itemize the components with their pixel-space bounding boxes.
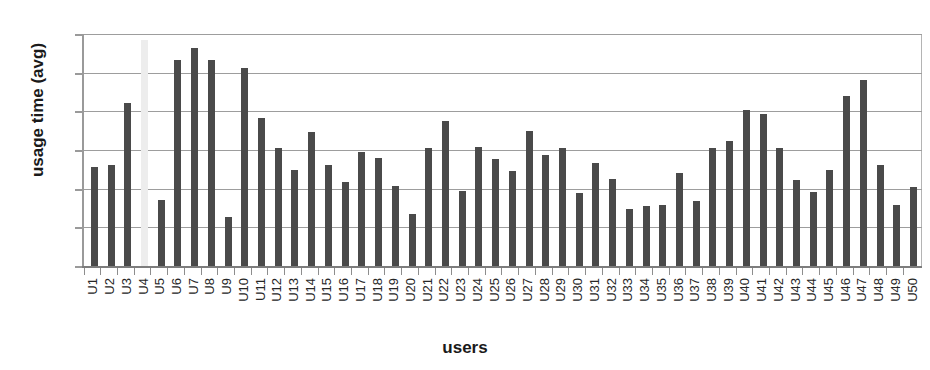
bar-slot[interactable]: [554, 34, 571, 266]
bar[interactable]: [459, 191, 466, 266]
bar[interactable]: [158, 200, 165, 266]
bar-slot[interactable]: [471, 34, 488, 266]
bar[interactable]: [542, 155, 549, 266]
bar-slot[interactable]: [119, 34, 136, 266]
bar-slot[interactable]: [905, 34, 922, 266]
bar[interactable]: [358, 152, 365, 266]
bar[interactable]: [475, 147, 482, 266]
bar[interactable]: [643, 206, 650, 266]
bar-slot[interactable]: [236, 34, 253, 266]
bar-slot[interactable]: [705, 34, 722, 266]
bar-slot[interactable]: [688, 34, 705, 266]
bar[interactable]: [626, 209, 633, 266]
bar-slot[interactable]: [454, 34, 471, 266]
bar-slot[interactable]: [872, 34, 889, 266]
bar-slot[interactable]: [805, 34, 822, 266]
bar[interactable]: [709, 148, 716, 266]
bar-slot[interactable]: [303, 34, 320, 266]
bar[interactable]: [241, 68, 248, 266]
bar[interactable]: [676, 173, 683, 266]
bar[interactable]: [291, 170, 298, 266]
bar-slot[interactable]: [220, 34, 237, 266]
bar[interactable]: [793, 180, 800, 266]
bar[interactable]: [776, 148, 783, 266]
bar[interactable]: [826, 170, 833, 266]
bar-slot[interactable]: [771, 34, 788, 266]
bar[interactable]: [910, 187, 917, 266]
bar-slot[interactable]: [671, 34, 688, 266]
bar-slot[interactable]: [253, 34, 270, 266]
bar[interactable]: [743, 110, 750, 266]
bar[interactable]: [342, 182, 349, 266]
bar-slot[interactable]: [487, 34, 504, 266]
bar[interactable]: [308, 132, 315, 266]
bar[interactable]: [877, 165, 884, 266]
bar-slot[interactable]: [571, 34, 588, 266]
bar-slot[interactable]: [320, 34, 337, 266]
bar-slot[interactable]: [604, 34, 621, 266]
bar[interactable]: [526, 131, 533, 266]
bar-slot[interactable]: [337, 34, 354, 266]
bar[interactable]: [108, 165, 115, 266]
bar[interactable]: [893, 205, 900, 266]
bar[interactable]: [843, 96, 850, 266]
bar[interactable]: [509, 171, 516, 266]
bar-slot[interactable]: [755, 34, 772, 266]
bar[interactable]: [91, 167, 98, 266]
bar-slot[interactable]: [504, 34, 521, 266]
bar[interactable]: [810, 192, 817, 266]
bar-slot[interactable]: [203, 34, 220, 266]
bar-slot[interactable]: [537, 34, 554, 266]
bar[interactable]: [392, 186, 399, 266]
bar-slot[interactable]: [889, 34, 906, 266]
bar[interactable]: [860, 80, 867, 266]
bar-slot[interactable]: [86, 34, 103, 266]
bar-slot[interactable]: [621, 34, 638, 266]
bar[interactable]: [191, 48, 198, 266]
bar-slot[interactable]: [186, 34, 203, 266]
bar[interactable]: [174, 60, 181, 266]
bar[interactable]: [609, 179, 616, 266]
bar-slot[interactable]: [437, 34, 454, 266]
bar-slot[interactable]: [654, 34, 671, 266]
bar-slot[interactable]: [638, 34, 655, 266]
bar-slot[interactable]: [354, 34, 371, 266]
bar-slot[interactable]: [788, 34, 805, 266]
bar[interactable]: [559, 148, 566, 266]
bar-slot[interactable]: [738, 34, 755, 266]
bar-slot[interactable]: [270, 34, 287, 266]
bar[interactable]: [693, 201, 700, 266]
bar-slot[interactable]: [822, 34, 839, 266]
bar-slot[interactable]: [404, 34, 421, 266]
bar[interactable]: [760, 114, 767, 266]
bar-slot[interactable]: [170, 34, 187, 266]
bar[interactable]: [576, 193, 583, 266]
bar-slot[interactable]: [521, 34, 538, 266]
bar-slot[interactable]: [588, 34, 605, 266]
bar[interactable]: [325, 165, 332, 266]
bar[interactable]: [258, 118, 265, 266]
bar[interactable]: [409, 214, 416, 266]
bar-slot[interactable]: [855, 34, 872, 266]
bar-slot[interactable]: [721, 34, 738, 266]
bar[interactable]: [726, 141, 733, 266]
bar[interactable]: [425, 148, 432, 266]
bar-slot[interactable]: [153, 34, 170, 266]
bar[interactable]: [225, 217, 232, 266]
bar[interactable]: [208, 60, 215, 266]
bar-slot[interactable]: [370, 34, 387, 266]
bar[interactable]: [492, 159, 499, 266]
bar[interactable]: [141, 40, 148, 266]
bar[interactable]: [592, 163, 599, 266]
bar-slot[interactable]: [420, 34, 437, 266]
bar[interactable]: [275, 148, 282, 266]
bar-slot[interactable]: [387, 34, 404, 266]
bar[interactable]: [375, 158, 382, 266]
bar[interactable]: [659, 205, 666, 266]
bar-slot[interactable]: [103, 34, 120, 266]
bar-slot[interactable]: [287, 34, 304, 266]
bar-slot[interactable]: [838, 34, 855, 266]
bar-slot[interactable]: [136, 34, 153, 266]
bar[interactable]: [442, 121, 449, 266]
bar[interactable]: [124, 103, 131, 266]
